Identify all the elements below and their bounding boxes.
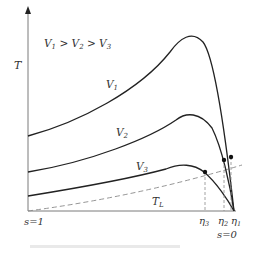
eta3-label: η3 bbox=[199, 215, 209, 228]
x-left-label: s=1 bbox=[24, 216, 44, 227]
eta2-label: η2 bbox=[218, 215, 228, 228]
curve-v1 bbox=[28, 36, 234, 211]
operating-point-v2 bbox=[222, 158, 226, 162]
y-axis-label: T bbox=[14, 59, 23, 72]
figure-caption-faint bbox=[30, 245, 180, 248]
eta1-label: η1 bbox=[231, 215, 241, 228]
curve-v2 bbox=[28, 115, 234, 211]
curve-label-v1: V1 bbox=[106, 78, 118, 92]
curve-label-v3: V3 bbox=[136, 160, 149, 174]
x-right-label: s=0 bbox=[217, 229, 238, 240]
curve-label-v2: V2 bbox=[116, 126, 129, 140]
speed-relation-legend: V1 > V2 > V3 bbox=[44, 37, 112, 51]
operating-point-v1 bbox=[229, 155, 233, 159]
curve-label-tl: TL bbox=[152, 195, 164, 209]
load-curve-tl bbox=[28, 165, 242, 211]
operating-point-v3 bbox=[203, 170, 207, 174]
torque-speed-diagram: T V1 > V2 > V3 V1 V2 V3 TL s=1 η3 η2 η1 … bbox=[0, 0, 256, 254]
